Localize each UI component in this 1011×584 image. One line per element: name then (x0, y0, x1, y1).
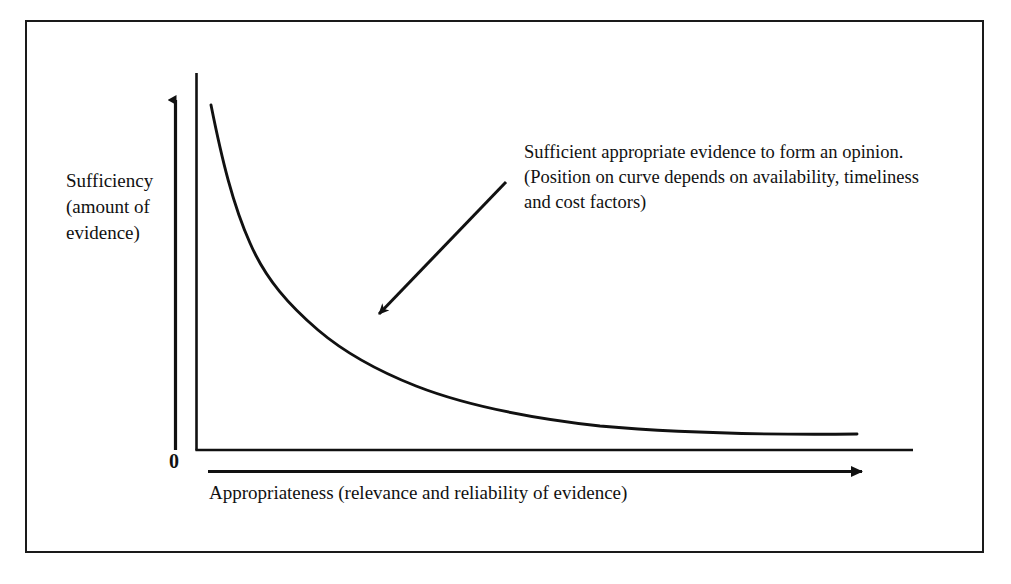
evidence-sufficiency-diagram: Sufficiency (amount of evidence) 0 Appro… (0, 0, 1011, 584)
origin-label: 0 (169, 450, 179, 472)
callout-arrow-icon (379, 182, 506, 314)
x-axis-label: Appropriateness (relevance and reliabili… (209, 481, 627, 505)
y-axis-label: Sufficiency (amount of evidence) (66, 168, 196, 246)
curve-annotation-label: Sufficient appropriate evidence to form … (524, 140, 924, 215)
